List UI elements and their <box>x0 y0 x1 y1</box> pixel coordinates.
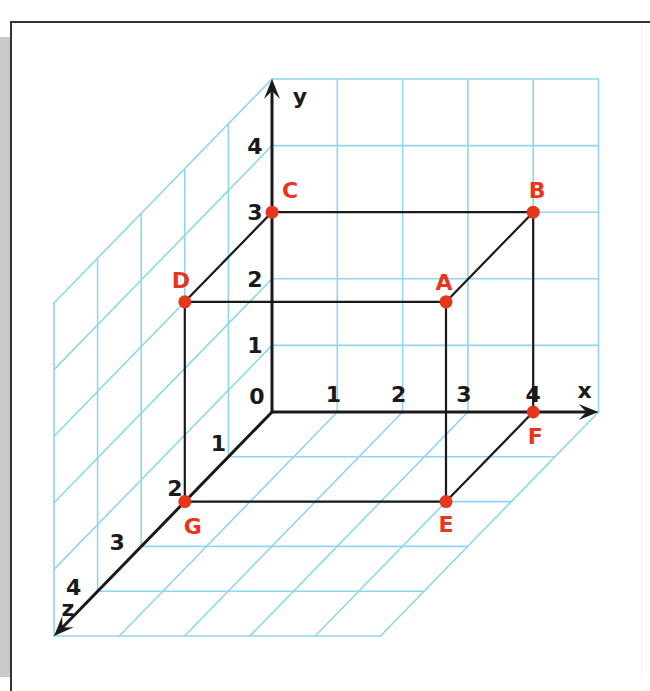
z-tick-label: 3 <box>110 530 125 555</box>
vertex-b-label: B <box>529 178 546 203</box>
vertex-d-label: D <box>172 268 190 293</box>
cuboid-edges <box>185 212 533 501</box>
grid-line <box>54 279 272 503</box>
grid-line <box>54 146 272 370</box>
y-tick-label: 2 <box>247 267 262 292</box>
y-tick-label: 3 <box>247 200 262 225</box>
origin-label: 0 <box>249 384 264 409</box>
x-axis-label: x <box>577 378 591 403</box>
z-axis <box>60 412 272 630</box>
vertex-a-label: A <box>435 270 452 295</box>
vertex-c-label: C <box>282 178 298 203</box>
z-tick-label: 2 <box>167 476 182 501</box>
vertex-d-dot <box>178 295 191 308</box>
grid-line <box>381 412 599 636</box>
vertex-f-dot <box>527 406 540 419</box>
y-axis-label: y <box>293 84 307 109</box>
x-tick-label: 1 <box>326 382 341 407</box>
vertex-g-label: G <box>184 514 202 539</box>
vertex-c-dot <box>266 206 279 219</box>
vertex-g-dot <box>178 495 191 508</box>
y-tick-label: 4 <box>247 134 262 159</box>
vertex-b-dot <box>527 206 540 219</box>
edge-BA <box>446 212 533 302</box>
axes <box>54 79 599 636</box>
y-tick-label: 1 <box>247 333 262 358</box>
vertex-a-dot <box>440 295 453 308</box>
x-tick-label: 2 <box>391 382 406 407</box>
vertex-e-dot <box>440 495 453 508</box>
x-tick-label: 4 <box>526 382 541 407</box>
grid-line <box>54 79 272 303</box>
z-tick-label: 1 <box>211 431 226 456</box>
x-tick-label: 3 <box>456 382 471 407</box>
vertex-f-label: F <box>528 424 543 449</box>
grid-line <box>250 412 468 636</box>
vertex-e-label: E <box>438 512 453 537</box>
z-axis-label: z <box>62 596 75 621</box>
